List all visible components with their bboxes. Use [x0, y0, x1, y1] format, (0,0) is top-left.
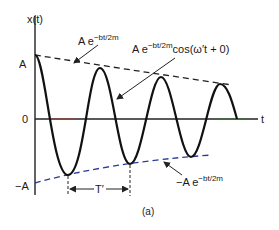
damped-oscillation-diagram: x(t) t A 0 −A A e−bt/2m A e−bt/2mcos(ω′t…	[0, 0, 279, 230]
figure-caption: (a)	[142, 206, 154, 217]
curve-pointer	[117, 58, 175, 99]
upper-envelope-label: A e−bt/2m	[78, 33, 119, 47]
upper-envelope	[35, 55, 232, 85]
damped-cosine-curve	[35, 55, 237, 175]
lower-envelope-pointer	[164, 162, 182, 175]
lower-envelope-label: −A e−bt/2m	[176, 174, 223, 188]
tick-label-A: A	[19, 58, 27, 70]
upper-envelope-pointer	[74, 45, 98, 63]
y-axis-label: x(t)	[27, 13, 43, 25]
x-axis-label: t	[261, 113, 264, 125]
tick-label-zero: 0	[22, 113, 28, 125]
period-label: T′	[95, 183, 104, 195]
curve-label: A e−bt/2mcos(ω′t + 0)	[132, 41, 229, 55]
tick-label-minus-A: −A	[15, 180, 29, 192]
